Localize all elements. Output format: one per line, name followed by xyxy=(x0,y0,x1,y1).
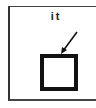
hollow-square xyxy=(40,54,78,91)
